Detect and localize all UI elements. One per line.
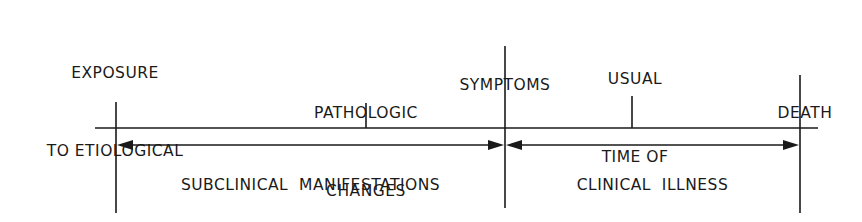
label-line: AGENT xyxy=(0,216,230,222)
label-line: TO ETIOLOGICAL xyxy=(0,138,230,164)
label-line: PATHOLOGIC xyxy=(286,100,446,126)
label-line: SYMPTOMS xyxy=(440,72,570,98)
event-label-death: DEATH xyxy=(755,48,855,152)
label-line: USUAL xyxy=(565,66,705,92)
phase-label-clinical: CLINICAL ILLNESS xyxy=(505,172,800,198)
label-line: EXPOSURE xyxy=(0,60,230,86)
label-line: TIME OF xyxy=(565,144,705,170)
arrowhead-left-icon xyxy=(506,140,522,150)
arrowhead-right-icon xyxy=(488,140,504,150)
label-line: DEATH xyxy=(755,100,855,126)
event-label-symptoms: SYMPTOMS xyxy=(440,20,570,124)
phase-label-subclinical: SUBCLINICAL MANIFESTATIONS xyxy=(116,172,505,198)
